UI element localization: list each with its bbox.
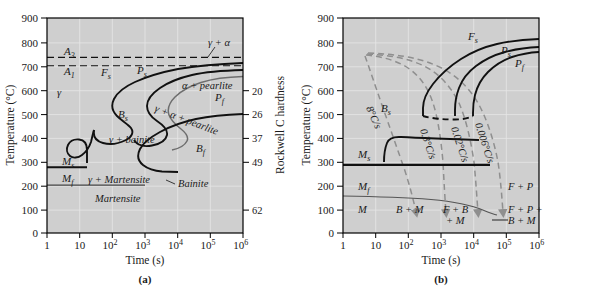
region-gamma-martensite-a: γ + Martensite <box>88 174 150 185</box>
panel-b-svg: 900 800 700 600 500 400 300 200 100 0 1 … <box>296 0 592 290</box>
yaxis-tick-labels-a: 900 800 700 600 500 400 300 200 100 0 <box>22 12 39 239</box>
ytick-600-a: 600 <box>22 85 39 97</box>
xaxis-title-a: Time (s) <box>126 254 165 267</box>
ytick-100-a: 100 <box>22 204 39 216</box>
hardness-37: 37 <box>252 133 263 144</box>
xtick-1e3-b: 103 <box>431 238 446 251</box>
region-martensite-a: Martensite <box>94 193 141 204</box>
ytick-800-b: 800 <box>318 37 335 49</box>
yaxis-ticks-a <box>41 18 47 233</box>
yaxis-title-b: Temperature (°C) <box>300 84 313 165</box>
ytick-0-b: 0 <box>329 227 335 239</box>
hardness-26: 26 <box>252 109 263 120</box>
region-fpbm-line2-b: B + M <box>508 215 537 226</box>
hardness-axis-ticks-a <box>243 91 249 210</box>
xtick-1-b: 1 <box>340 239 346 251</box>
panel-a-svg: 900 800 700 600 500 400 300 200 100 0 1 … <box>0 0 296 290</box>
xtick-10-a: 10 <box>74 239 86 251</box>
hardness-20: 20 <box>252 86 263 97</box>
xtick-1e6-b: 106 <box>529 238 544 251</box>
region-fbm-line1-b: F + B <box>442 204 469 215</box>
ytick-0-a: 0 <box>33 227 39 239</box>
ytick-300-b: 300 <box>318 156 335 168</box>
ytick-400-b: 400 <box>318 132 335 144</box>
panel-caption-a: (a) <box>139 273 152 286</box>
hardness-tick-labels-a: 20 26 37 49 62 <box>252 86 263 216</box>
ytick-800-a: 800 <box>22 37 39 49</box>
xaxis-tick-labels-a: 1 10 102 103 104 105 106 <box>44 238 248 251</box>
ytick-700-a: 700 <box>22 61 39 73</box>
xtick-1e4-b: 104 <box>464 238 479 251</box>
hardness-62: 62 <box>252 205 263 216</box>
region-bainite-a: Bainite <box>178 178 209 189</box>
region-fbm-line2-b: + M <box>446 215 466 226</box>
hardness-axis-title-a: Rockwell C hardness <box>274 76 286 174</box>
hardness-49: 49 <box>252 157 263 168</box>
region-fpbm-line1-b: F + P + <box>507 204 543 215</box>
ytick-400-a: 400 <box>22 132 39 144</box>
yaxis-ticks-b <box>337 18 343 233</box>
ytick-200-a: 200 <box>22 180 39 192</box>
panel-a-ttt-diagram: 900 800 700 600 500 400 300 200 100 0 1 … <box>0 0 296 290</box>
yaxis-title-a: Temperature (°C) <box>4 84 17 165</box>
ytick-600-b: 600 <box>318 85 335 97</box>
ytick-100-b: 100 <box>318 204 335 216</box>
panel-b-cct-diagram: 900 800 700 600 500 400 300 200 100 0 1 … <box>296 0 592 290</box>
xtick-1e5-b: 105 <box>497 238 512 251</box>
ytick-500-b: 500 <box>318 109 335 121</box>
xtick-1-a: 1 <box>44 239 50 251</box>
ytick-200-b: 200 <box>318 180 335 192</box>
region-alpha-pearlite-a: α + pearlite <box>182 80 233 91</box>
figure-container: 900 800 700 600 500 400 300 200 100 0 1 … <box>0 0 592 290</box>
xtick-10-b: 10 <box>370 239 382 251</box>
xaxis-tick-labels-b: 1 10 102 103 104 105 106 <box>340 238 544 251</box>
ytick-700-b: 700 <box>318 61 335 73</box>
panel-caption-b: (b) <box>434 273 448 286</box>
ytick-900-b: 900 <box>318 12 335 24</box>
region-bm-b: B + M <box>396 204 425 215</box>
xtick-1e6-a: 106 <box>233 238 248 251</box>
yaxis-tick-labels-b: 900 800 700 600 500 400 300 200 100 0 <box>318 12 335 239</box>
region-gamma-alpha-a: γ + α <box>208 37 230 48</box>
xtick-1e3-a: 103 <box>135 238 150 251</box>
xaxis-title-b: Time (s) <box>422 254 461 267</box>
ytick-300-a: 300 <box>22 156 39 168</box>
xtick-1e5-a: 105 <box>201 238 216 251</box>
xtick-1e4-a: 104 <box>168 238 183 251</box>
ytick-900-a: 900 <box>22 12 39 24</box>
region-gamma-bainite-a: γ + bainite <box>109 134 155 145</box>
ytick-500-a: 500 <box>22 109 39 121</box>
region-fp-b: F + P <box>507 181 534 192</box>
xtick-1e2-b: 102 <box>399 238 414 251</box>
region-m-b: M <box>357 204 368 215</box>
xtick-1e2-a: 102 <box>103 238 118 251</box>
